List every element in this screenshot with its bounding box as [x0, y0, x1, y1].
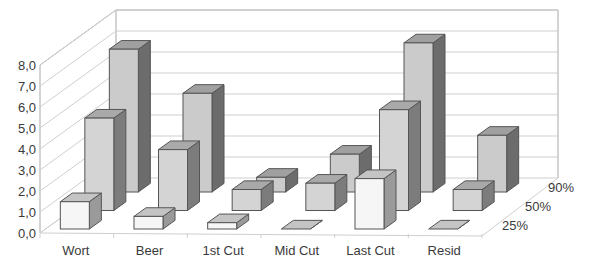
- bar-front: [159, 150, 188, 211]
- bar-top: [429, 220, 470, 229]
- y-tick-label: 1,0: [18, 205, 36, 220]
- y-axis: 0,01,02,03,04,05,06,07,08,0: [18, 58, 36, 241]
- bar: [429, 220, 470, 229]
- bar-side: [188, 141, 200, 211]
- bar-front: [355, 179, 384, 229]
- bar-front: [134, 216, 163, 229]
- bar-top: [281, 220, 322, 229]
- bar-front: [60, 202, 89, 229]
- bar-side: [212, 85, 224, 192]
- category-label: Last Cut: [346, 243, 395, 258]
- bar-side: [114, 109, 126, 210]
- x-axis: WortBeer1st CutMid CutLast CutResid: [40, 234, 482, 258]
- y-tick-label: 4,0: [18, 142, 36, 157]
- bars: [60, 34, 518, 229]
- bar: [134, 208, 175, 229]
- category-label: Wort: [62, 243, 90, 258]
- category-label: Resid: [428, 243, 461, 258]
- bar-front: [208, 223, 237, 229]
- side-gridline: [40, 10, 116, 65]
- category-label: 1st Cut: [203, 243, 245, 258]
- bar: [208, 214, 249, 229]
- category-label: Mid Cut: [274, 243, 319, 258]
- series-label: 90%: [548, 180, 574, 195]
- side-gridline: [40, 52, 116, 107]
- bar-side: [433, 34, 445, 192]
- bar: [355, 170, 396, 229]
- bar: [453, 181, 494, 211]
- y-tick-label: 0,0: [18, 226, 36, 241]
- y-tick-label: 6,0: [18, 100, 36, 115]
- bar-side: [384, 170, 396, 229]
- 3d-column-chart: 0,01,02,03,04,05,06,07,08,0 WortBeer1st …: [0, 0, 602, 269]
- y-tick-label: 3,0: [18, 163, 36, 178]
- bar-side: [409, 101, 421, 210]
- bar-side: [507, 127, 519, 192]
- y-tick-label: 8,0: [18, 58, 36, 73]
- y-tick-label: 5,0: [18, 121, 36, 136]
- bar-front: [232, 190, 261, 211]
- side-gridline: [40, 31, 116, 86]
- bar: [159, 141, 200, 211]
- y-tick-label: 2,0: [18, 184, 36, 199]
- y-tick-label: 7,0: [18, 79, 36, 94]
- bar: [232, 181, 273, 211]
- series-label: 25%: [502, 218, 528, 233]
- bar-side: [138, 41, 150, 192]
- category-label: Beer: [136, 243, 164, 258]
- bar: [60, 193, 101, 229]
- bar-front: [453, 190, 482, 211]
- bar: [281, 220, 322, 229]
- bar: [306, 175, 347, 211]
- bar-front: [306, 183, 335, 210]
- series-label: 50%: [525, 199, 551, 214]
